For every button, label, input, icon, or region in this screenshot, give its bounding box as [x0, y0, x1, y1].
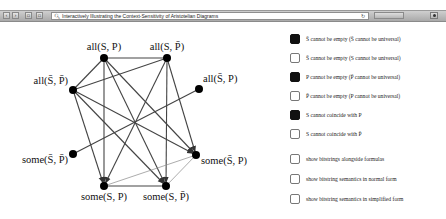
label-all-S-P: all(S, P) [87, 41, 122, 53]
reload-icon[interactable]: ↻ [361, 13, 365, 19]
node-all-S-P[interactable] [100, 54, 108, 62]
option-label: show bitstrings alongside formulas [306, 156, 384, 162]
option-label: S cannot coincide with P [306, 112, 362, 118]
node-all-Sbar-P[interactable] [195, 85, 203, 93]
option-normal-form[interactable]: show bitstring semantics in normal form [290, 172, 397, 186]
option-label: S̄ cannot be empty (S̄ cannot be univers… [306, 36, 401, 42]
edge [104, 58, 196, 155]
checkbox-unchecked[interactable] [290, 154, 300, 164]
checkbox-checked[interactable] [290, 110, 300, 120]
checkbox-unchecked[interactable] [290, 91, 300, 101]
subcontrary-edges [104, 155, 196, 186]
option-label: S cannot coincide with P̄ [306, 131, 362, 137]
search-icon: 🔍︎ [54, 13, 60, 19]
label-all-S-Pbar: all(S, P̄) [150, 41, 185, 53]
address-text: Interactively Illustrating the Context-S… [62, 13, 218, 19]
edge [73, 58, 167, 90]
checkbox-checked[interactable] [290, 72, 300, 82]
label-all-Sbar-Pbar: all(S̄, P̄) [34, 75, 69, 87]
checkbox-unchecked[interactable] [290, 129, 300, 139]
option-label: show bitstring semantics in normal form [306, 176, 397, 182]
option-s-not-pbar[interactable]: S cannot coincide with P̄ [290, 127, 362, 141]
settings-button[interactable] [430, 12, 438, 19]
checkbox-unchecked[interactable] [290, 174, 300, 184]
option-label: P̄ cannot be empty (P cannot be universa… [306, 93, 400, 99]
toolbar-extension-button[interactable] [374, 12, 404, 19]
aristotelian-diagram: all(S, P) all(S, P̄) all(S̄, P̄) all(S̄,… [0, 22, 280, 219]
option-simplified-form[interactable]: show bitstring semantics in simplified f… [290, 192, 403, 206]
edge [104, 155, 196, 186]
node-some-S-P[interactable] [100, 182, 108, 190]
label-some-Sbar-Pbar: some(S̄, P̄) [22, 154, 69, 166]
address-bar[interactable]: 🔍︎Interactively Illustrating the Context… [51, 12, 369, 20]
option-label: show bitstring semantics in simplified f… [306, 196, 403, 202]
browser-toolbar: ‹ › ▫ ▫ 🔍︎Interactively Illustrating the… [0, 10, 446, 22]
forward-button[interactable]: › [12, 12, 19, 19]
edge [166, 58, 167, 186]
option-s-not-p[interactable]: S cannot coincide with P [290, 108, 362, 122]
option-label: P cannot be empty (P̄ cannot be universa… [306, 74, 400, 80]
option-label: S̄ cannot be empty (S cannot be universa… [306, 55, 401, 61]
option-s-nonempty[interactable]: S̄ cannot be empty (S cannot be universa… [290, 51, 401, 65]
checkbox-unchecked[interactable] [290, 53, 300, 63]
checkbox-checked[interactable] [290, 34, 300, 44]
label-all-Sbar-P: all(S̄, P) [203, 73, 238, 85]
edge [73, 89, 199, 154]
node-some-S-Pbar[interactable] [162, 182, 170, 190]
label-some-Sbar-P: some(S̄, P) [201, 155, 248, 167]
node-some-Sbar-Pbar[interactable] [69, 150, 77, 158]
checkbox-unchecked[interactable] [290, 194, 300, 204]
option-p-nonempty[interactable]: P cannot be empty (P̄ cannot be universa… [290, 70, 400, 84]
label-some-S-P: some(S, P) [81, 191, 128, 203]
option-show-bitstrings[interactable]: show bitstrings alongside formulas [290, 152, 384, 166]
edge [73, 90, 166, 186]
label-some-S-Pbar: some(S, P̄) [143, 191, 190, 203]
edge [166, 155, 196, 186]
option-pbar-nonempty[interactable]: P̄ cannot be empty (P cannot be universa… [290, 89, 400, 103]
sidebar-button[interactable]: ▫ [36, 12, 43, 19]
node-some-Sbar-P[interactable] [192, 151, 200, 159]
node-all-S-Pbar[interactable] [163, 54, 171, 62]
option-sbar-nonempty[interactable]: S̄ cannot be empty (S̄ cannot be univers… [290, 32, 401, 46]
share-button[interactable]: ▫ [25, 12, 32, 19]
edges [73, 58, 199, 186]
back-button[interactable]: ‹ [3, 12, 10, 19]
node-all-Sbar-Pbar[interactable] [69, 86, 77, 94]
